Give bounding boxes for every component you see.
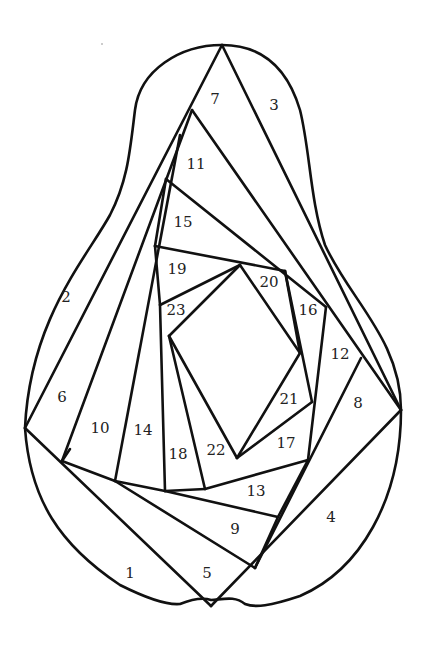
- section-number-20: 20: [259, 273, 278, 291]
- section-number-16: 16: [298, 301, 317, 319]
- section-line: [222, 45, 401, 410]
- section-line: [308, 307, 326, 460]
- section-number-3: 3: [269, 96, 279, 114]
- section-line: [169, 336, 205, 489]
- section-number-23: 23: [166, 301, 185, 319]
- section-number-6: 6: [57, 388, 67, 406]
- section-numbers: 1234567891011121314151617181920212223: [57, 90, 363, 582]
- section-number-19: 19: [167, 260, 186, 278]
- section-number-9: 9: [230, 520, 240, 538]
- section-number-18: 18: [168, 445, 187, 463]
- section-number-17: 17: [276, 434, 295, 452]
- section-number-11: 11: [186, 155, 205, 173]
- section-number-13: 13: [246, 482, 265, 500]
- section-line: [165, 489, 205, 491]
- section-line: [166, 179, 326, 307]
- section-number-14: 14: [133, 421, 152, 439]
- section-number-8: 8: [353, 394, 363, 412]
- section-number-21: 21: [279, 390, 298, 408]
- pear-outline: [25, 45, 401, 606]
- section-number-2: 2: [61, 288, 71, 306]
- section-number-10: 10: [90, 419, 109, 437]
- section-number-22: 22: [206, 441, 225, 459]
- section-number-1: 1: [125, 564, 135, 582]
- pattern-canvas: 1234567891011121314151617181920212223: [0, 0, 427, 650]
- section-line: [169, 336, 237, 458]
- section-line: [160, 305, 165, 491]
- section-line: [278, 460, 308, 517]
- section-number-15: 15: [173, 213, 192, 231]
- section-number-7: 7: [210, 90, 220, 108]
- section-number-12: 12: [330, 345, 349, 363]
- section-number-4: 4: [326, 508, 336, 526]
- section-number-5: 5: [202, 564, 212, 582]
- section-line: [25, 45, 222, 428]
- dust-speck: [101, 43, 103, 45]
- section-lines: [25, 45, 401, 606]
- section-line: [237, 402, 312, 458]
- section-line: [255, 358, 361, 568]
